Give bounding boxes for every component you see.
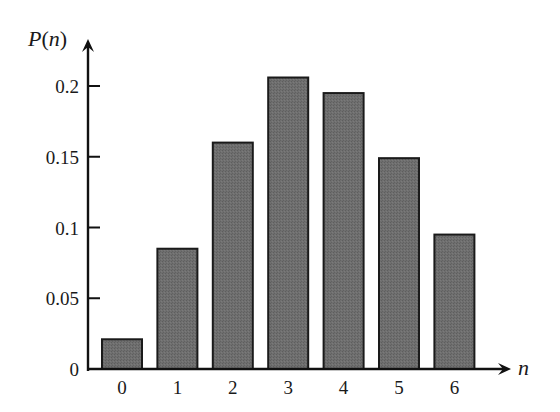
bar-n-5 xyxy=(379,158,419,369)
bar-n-0 xyxy=(102,339,142,369)
y-tick-label: 0.2 xyxy=(55,76,79,97)
y-tick-label: 0.05 xyxy=(46,288,79,309)
x-axis-title: n xyxy=(518,355,529,380)
y-tick-label: 0.1 xyxy=(55,218,79,239)
x-tick-label: 2 xyxy=(228,377,238,398)
x-tick-label: 4 xyxy=(339,377,349,398)
bar-chart: 00.050.10.150.2 0123456 P(n) n xyxy=(0,0,560,412)
bar-n-4 xyxy=(324,93,364,369)
x-tick-label: 3 xyxy=(283,377,293,398)
x-tick-label: 0 xyxy=(117,377,127,398)
x-tick-labels-group: 0123456 xyxy=(117,377,459,398)
y-axis-title: P(n) xyxy=(27,26,67,51)
bar-n-3 xyxy=(268,78,308,369)
y-ticks-group: 00.050.10.150.2 xyxy=(46,76,100,380)
y-tick-label: 0.15 xyxy=(46,147,79,168)
x-tick-label: 6 xyxy=(450,377,460,398)
bar-n-1 xyxy=(157,249,197,369)
bar-n-6 xyxy=(434,235,474,369)
x-tick-label: 5 xyxy=(394,377,404,398)
bars-group xyxy=(102,78,474,369)
x-tick-label: 1 xyxy=(173,377,183,398)
bar-n-2 xyxy=(213,143,253,369)
y-tick-label: 0 xyxy=(70,359,80,380)
